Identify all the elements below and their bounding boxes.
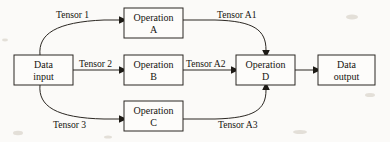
node-operation-b[interactable]: Operation B bbox=[124, 55, 183, 85]
node-operation-d[interactable]: Operation D bbox=[236, 55, 295, 85]
edge-tensor-3 bbox=[40, 85, 127, 123]
node-operation-d-line1: Operation bbox=[246, 59, 286, 70]
edge-label-tensor-2: Tensor 2 bbox=[79, 58, 112, 69]
node-operation-c-line1: Operation bbox=[134, 105, 174, 116]
node-data-output-line2: output bbox=[334, 71, 360, 82]
edge-tensor-a3 bbox=[183, 82, 270, 119]
edge-label-tensor-a3: Tensor A3 bbox=[218, 119, 258, 130]
node-data-input-line2: input bbox=[33, 71, 54, 82]
node-data-output-line1: Data bbox=[337, 59, 356, 70]
edge-label-tensor-3: Tensor 3 bbox=[53, 119, 86, 130]
diagram-canvas: Data input Operation A Operation B Opera… bbox=[0, 0, 390, 142]
node-operation-a-line2: A bbox=[150, 24, 158, 35]
node-operation-b-line2: B bbox=[150, 71, 157, 82]
node-data-input-line1: Data bbox=[34, 59, 53, 70]
edge-label-tensor-a1: Tensor A1 bbox=[217, 9, 257, 20]
edge-tensor-a1 bbox=[183, 20, 270, 58]
node-data-output[interactable]: Data output bbox=[318, 55, 375, 85]
node-operation-c-line2: C bbox=[150, 117, 157, 128]
edge-output bbox=[295, 66, 321, 74]
node-operation-b-line1: Operation bbox=[134, 59, 174, 70]
node-operation-c[interactable]: Operation C bbox=[124, 101, 183, 131]
node-operation-a[interactable]: Operation A bbox=[124, 8, 183, 38]
node-operation-d-line2: D bbox=[262, 71, 269, 82]
edge-tensor-1 bbox=[40, 16, 127, 55]
edge-label-tensor-a2: Tensor A2 bbox=[186, 58, 226, 69]
edge-label-tensor-1: Tensor 1 bbox=[56, 9, 89, 20]
node-operation-a-line1: Operation bbox=[134, 12, 174, 23]
dataflow-diagram: Data input Operation A Operation B Opera… bbox=[0, 0, 390, 142]
node-data-input[interactable]: Data input bbox=[14, 55, 73, 85]
